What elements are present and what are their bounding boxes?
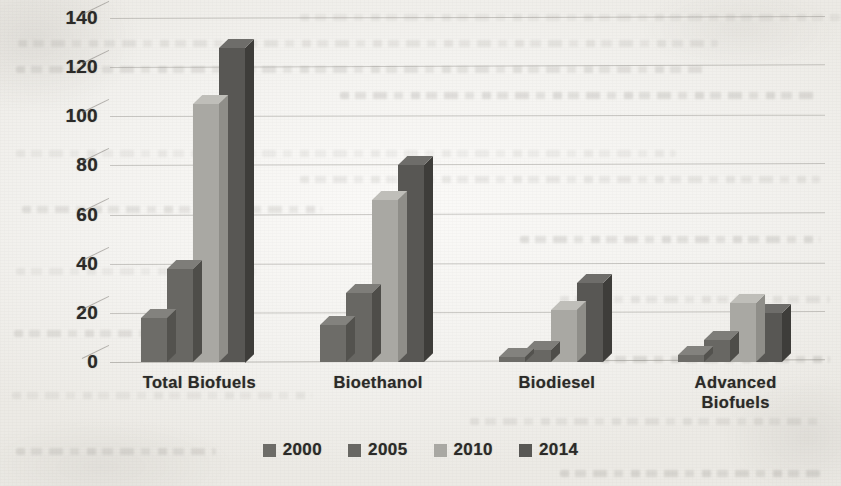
bar bbox=[141, 318, 167, 362]
legend-swatch bbox=[434, 444, 447, 457]
category-label-line: Bioethanol bbox=[289, 372, 468, 392]
bar-group bbox=[678, 18, 782, 362]
legend-swatch bbox=[348, 444, 361, 457]
bar-front-face bbox=[499, 357, 525, 362]
category-label-line: Total Biofuels bbox=[110, 372, 289, 392]
category-label-line: Biofuels bbox=[646, 392, 825, 412]
legend-item: 2005 bbox=[348, 440, 407, 460]
bar-side-face bbox=[424, 157, 433, 362]
x-axis-category-label: AdvancedBiofuels bbox=[646, 372, 825, 412]
legend-label: 2000 bbox=[283, 440, 322, 460]
tick-lead-stroke bbox=[82, 50, 109, 64]
bar bbox=[320, 325, 346, 362]
category-label-line: Advanced bbox=[646, 372, 825, 392]
tick-lead-stroke bbox=[82, 197, 109, 211]
bar-side-face bbox=[245, 39, 254, 362]
tick-lead-stroke bbox=[82, 247, 109, 261]
legend-label: 2005 bbox=[368, 440, 407, 460]
tick-lead-stroke bbox=[82, 148, 109, 162]
x-axis-category-label: Biodiesel bbox=[468, 372, 647, 392]
bar-side-face bbox=[219, 95, 228, 362]
bar-groups bbox=[110, 18, 825, 362]
bar-group bbox=[499, 18, 603, 362]
x-axis-category-label: Total Biofuels bbox=[110, 372, 289, 392]
bar-side-face bbox=[782, 304, 791, 362]
bar-group bbox=[141, 18, 245, 362]
bar-side-face bbox=[372, 285, 381, 362]
legend-item: 2000 bbox=[263, 440, 322, 460]
tick-lead-stroke bbox=[82, 99, 109, 113]
bar-front-face bbox=[678, 355, 704, 362]
bar bbox=[678, 355, 704, 362]
bar-side-face bbox=[193, 260, 202, 362]
x-axis-category-label: Bioethanol bbox=[289, 372, 468, 392]
bar-chart: 020406080100120140 Total BiofuelsBioetha… bbox=[0, 0, 841, 486]
bar-side-face bbox=[603, 275, 612, 362]
legend-item: 2010 bbox=[434, 440, 493, 460]
legend-label: 2014 bbox=[539, 440, 578, 460]
bar-side-face bbox=[756, 294, 765, 362]
bar-front-face bbox=[320, 325, 346, 362]
tick-lead-stroke bbox=[82, 345, 109, 359]
tick-lead-stroke bbox=[82, 296, 109, 310]
legend-item: 2014 bbox=[519, 440, 578, 460]
chart-page: 020406080100120140 Total BiofuelsBioetha… bbox=[0, 0, 841, 486]
bar-side-face bbox=[398, 191, 407, 362]
category-label-line: Biodiesel bbox=[468, 372, 647, 392]
legend-label: 2010 bbox=[454, 440, 493, 460]
bar-side-face bbox=[577, 302, 586, 362]
bar-front-face bbox=[141, 318, 167, 362]
bar-group bbox=[320, 18, 424, 362]
bar-side-face bbox=[167, 309, 176, 362]
bar bbox=[499, 357, 525, 362]
chart-legend: 2000200520102014 bbox=[0, 440, 841, 460]
x-axis-category-labels: Total BiofuelsBioethanolBiodieselAdvance… bbox=[110, 372, 825, 430]
legend-swatch bbox=[263, 444, 276, 457]
legend-swatch bbox=[519, 444, 532, 457]
